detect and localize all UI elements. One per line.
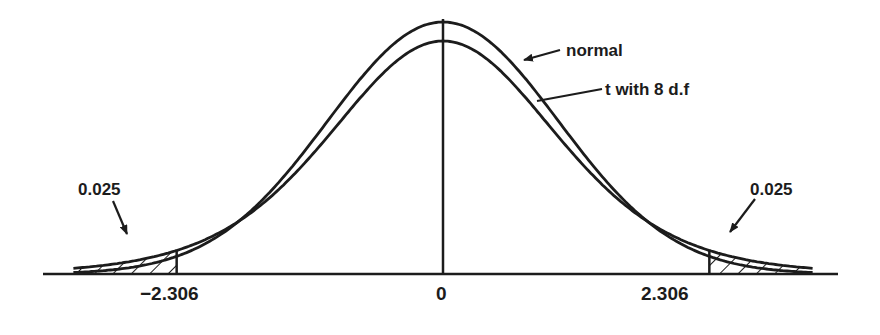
tick-label-zero: 0 <box>436 284 447 303</box>
t-curve-pointer-line <box>537 89 602 101</box>
tick-label-neg-critical: −2.306 <box>140 284 199 303</box>
annotation-tail-right: 0.025 <box>750 181 793 198</box>
annotation-t-curve: t with 8 d.f <box>605 81 689 98</box>
annotation-tail-left: 0.025 <box>78 181 121 198</box>
annotation-normal: normal <box>566 42 623 59</box>
normal-arrow-icon <box>524 50 560 60</box>
tick-label-pos-critical: 2.306 <box>641 284 689 303</box>
tail-left-arrow-icon <box>113 201 127 234</box>
tail-right-arrow-icon <box>730 199 755 232</box>
